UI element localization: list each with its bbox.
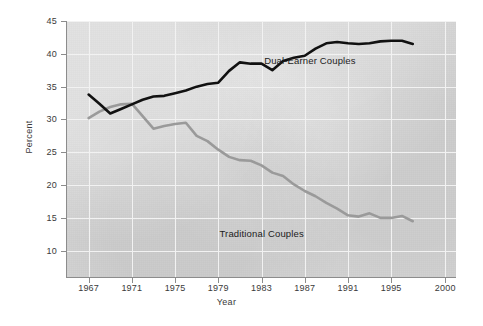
y-tick-label: 35 [31,82,57,92]
chart-figure: 1015202530354045 19671971197519791983198… [0,0,483,326]
y-tick-label: 25 [31,147,57,157]
y-tick-label: 20 [31,180,57,190]
y-tick-label: 15 [31,213,57,223]
y-tick-mark [61,119,67,120]
x-tick-label: 1975 [155,283,195,293]
x-tick-label: 1971 [112,283,152,293]
x-tick-label: 1987 [285,283,325,293]
x-tick-label: 1979 [198,283,238,293]
line-traditional-couples [89,104,413,222]
x-tick-label: 1983 [242,283,282,293]
y-tick-label: 10 [31,246,57,256]
y-tick-label: 40 [31,49,57,59]
series-label-dual-earner-couples: Dual-Earner Couples [264,55,356,66]
line-dual-earner-couples [89,41,413,114]
x-tick-label: 1991 [328,283,368,293]
y-tick-mark [61,152,67,153]
y-tick-mark [61,54,67,55]
y-tick-mark [61,87,67,88]
y-axis-title: Percent [24,102,34,172]
y-tick-mark [61,251,67,252]
series-label-traditional-couples: Traditional Couples [220,228,304,239]
y-tick-mark [61,185,67,186]
x-tick-label: 1995 [371,283,411,293]
y-tick-label: 45 [31,16,57,26]
y-tick-mark [61,218,67,219]
x-axis-title: Year [0,297,483,307]
x-axis-title-text: Year [217,297,236,307]
x-tick-label: 2000 [425,283,465,293]
y-axis-line [66,21,67,278]
y-tick-label: 30 [31,114,57,124]
y-tick-mark [61,21,67,22]
x-tick-label: 1967 [69,283,109,293]
